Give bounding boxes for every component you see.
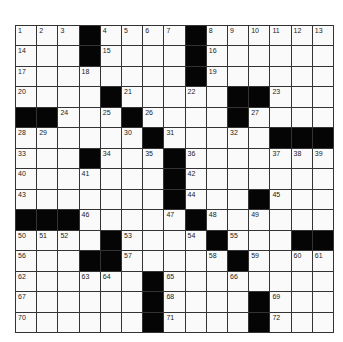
grid-cell[interactable]	[249, 149, 269, 168]
grid-cell[interactable]: 26	[143, 108, 163, 127]
grid-cell[interactable]	[313, 108, 333, 127]
grid-cell[interactable]	[58, 190, 78, 209]
grid-cell[interactable]	[58, 251, 78, 270]
grid-cell[interactable]	[58, 272, 78, 291]
grid-cell[interactable]	[313, 292, 333, 311]
grid-cell[interactable]	[164, 67, 184, 86]
grid-cell[interactable]: 30	[122, 128, 142, 147]
grid-cell[interactable]	[292, 313, 312, 332]
grid-cell[interactable]: 2	[37, 26, 57, 45]
grid-cell[interactable]: 28	[16, 128, 36, 147]
grid-cell[interactable]: 31	[164, 128, 184, 147]
grid-cell[interactable]: 64	[101, 272, 121, 291]
grid-cell[interactable]: 66	[228, 272, 248, 291]
grid-cell[interactable]	[249, 169, 269, 188]
grid-cell[interactable]	[207, 272, 227, 291]
grid-cell[interactable]: 39	[313, 149, 333, 168]
grid-cell[interactable]	[58, 87, 78, 106]
grid-cell[interactable]: 16	[207, 46, 227, 65]
grid-cell[interactable]	[164, 46, 184, 65]
grid-cell[interactable]	[58, 149, 78, 168]
grid-cell[interactable]	[313, 46, 333, 65]
grid-cell[interactable]	[122, 67, 142, 86]
grid-cell[interactable]	[207, 190, 227, 209]
grid-cell[interactable]: 45	[270, 190, 290, 209]
grid-cell[interactable]: 25	[101, 108, 121, 127]
grid-cell[interactable]: 22	[186, 87, 206, 106]
grid-cell[interactable]: 53	[122, 231, 142, 250]
grid-cell[interactable]	[101, 210, 121, 229]
grid-cell[interactable]	[207, 128, 227, 147]
grid-cell[interactable]: 6	[143, 26, 163, 45]
grid-cell[interactable]	[292, 87, 312, 106]
grid-cell[interactable]: 57	[122, 251, 142, 270]
grid-cell[interactable]: 49	[249, 210, 269, 229]
grid-cell[interactable]	[143, 46, 163, 65]
grid-cell[interactable]	[207, 87, 227, 106]
grid-cell[interactable]	[143, 190, 163, 209]
grid-cell[interactable]	[143, 231, 163, 250]
grid-cell[interactable]	[207, 169, 227, 188]
grid-cell[interactable]	[207, 108, 227, 127]
grid-cell[interactable]: 29	[37, 128, 57, 147]
grid-cell[interactable]	[122, 210, 142, 229]
grid-cell[interactable]: 23	[270, 87, 290, 106]
grid-cell[interactable]: 27	[249, 108, 269, 127]
grid-cell[interactable]	[101, 67, 121, 86]
grid-cell[interactable]: 14	[16, 46, 36, 65]
grid-cell[interactable]: 58	[207, 251, 227, 270]
grid-cell[interactable]: 1	[16, 26, 36, 45]
grid-cell[interactable]: 61	[313, 251, 333, 270]
grid-cell[interactable]	[313, 210, 333, 229]
grid-cell[interactable]: 42	[186, 169, 206, 188]
grid-cell[interactable]	[122, 313, 142, 332]
grid-cell[interactable]	[101, 292, 121, 311]
grid-cell[interactable]: 32	[228, 128, 248, 147]
grid-cell[interactable]	[37, 190, 57, 209]
grid-cell[interactable]	[122, 272, 142, 291]
grid-cell[interactable]: 13	[313, 26, 333, 45]
grid-cell[interactable]: 37	[270, 149, 290, 168]
grid-cell[interactable]	[270, 46, 290, 65]
grid-cell[interactable]: 46	[80, 210, 100, 229]
grid-cell[interactable]	[249, 46, 269, 65]
grid-cell[interactable]	[292, 169, 312, 188]
grid-cell[interactable]	[37, 46, 57, 65]
grid-cell[interactable]	[228, 210, 248, 229]
grid-cell[interactable]	[249, 231, 269, 250]
grid-cell[interactable]	[228, 67, 248, 86]
grid-cell[interactable]	[101, 313, 121, 332]
grid-cell[interactable]	[292, 108, 312, 127]
grid-cell[interactable]: 68	[164, 292, 184, 311]
grid-cell[interactable]	[143, 169, 163, 188]
grid-cell[interactable]	[228, 149, 248, 168]
grid-cell[interactable]	[164, 251, 184, 270]
grid-cell[interactable]: 62	[16, 272, 36, 291]
grid-cell[interactable]	[292, 210, 312, 229]
grid-cell[interactable]	[58, 128, 78, 147]
grid-cell[interactable]	[143, 251, 163, 270]
grid-cell[interactable]: 70	[16, 313, 36, 332]
grid-cell[interactable]: 24	[58, 108, 78, 127]
grid-cell[interactable]	[228, 190, 248, 209]
grid-cell[interactable]: 65	[164, 272, 184, 291]
grid-cell[interactable]: 55	[228, 231, 248, 250]
grid-cell[interactable]: 12	[292, 26, 312, 45]
grid-cell[interactable]	[270, 231, 290, 250]
grid-cell[interactable]: 60	[292, 251, 312, 270]
grid-cell[interactable]: 11	[270, 26, 290, 45]
grid-cell[interactable]: 72	[270, 313, 290, 332]
grid-cell[interactable]	[186, 128, 206, 147]
grid-cell[interactable]: 10	[249, 26, 269, 45]
grid-cell[interactable]	[313, 190, 333, 209]
grid-cell[interactable]: 36	[186, 149, 206, 168]
grid-cell[interactable]	[186, 272, 206, 291]
grid-cell[interactable]: 34	[101, 149, 121, 168]
grid-cell[interactable]	[37, 169, 57, 188]
grid-cell[interactable]	[313, 169, 333, 188]
grid-cell[interactable]	[270, 67, 290, 86]
grid-cell[interactable]	[207, 313, 227, 332]
grid-cell[interactable]	[313, 87, 333, 106]
grid-cell[interactable]	[37, 149, 57, 168]
grid-cell[interactable]: 8	[207, 26, 227, 45]
